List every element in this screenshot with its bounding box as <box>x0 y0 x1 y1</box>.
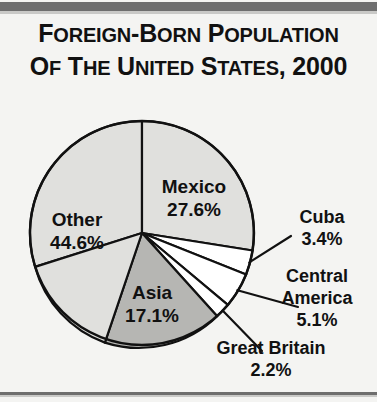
leader-line-cuba <box>249 236 291 262</box>
label-great-britain-name: Great Britain <box>216 338 325 358</box>
pie-chart-figure: FOREIGN-BORN POPULATION OF THE UNITED ST… <box>0 0 377 402</box>
top-divider-shadow <box>0 11 377 14</box>
label-cuba-name: Cuba <box>300 207 346 227</box>
chart-title-line-1: FOREIGN-BORN POPULATION <box>0 18 377 51</box>
label-other-value: 44.6% <box>50 232 104 253</box>
pie-svg: Mexico 27.6% Other 44.6% Asia 17.1% Cuba… <box>0 95 377 390</box>
label-great-britain-value: 2.2% <box>250 360 291 380</box>
chart-plot-area: Mexico 27.6% Other 44.6% Asia 17.1% Cuba… <box>0 95 377 390</box>
label-central-america-name-line1: Central <box>286 266 348 286</box>
bottom-divider-shadow <box>0 395 377 397</box>
label-central-america-name-line2: America <box>281 288 353 308</box>
top-divider-rule <box>0 2 377 11</box>
label-mexico-value: 27.6% <box>167 199 221 220</box>
label-mexico-name: Mexico <box>162 176 226 197</box>
label-other-name: Other <box>52 209 103 230</box>
label-central-america-value: 5.1% <box>296 310 337 330</box>
chart-title: FOREIGN-BORN POPULATION OF THE UNITED ST… <box>0 18 377 84</box>
label-cuba-value: 3.4% <box>301 229 342 249</box>
chart-title-line-2: OF THE UNITED STATES, 2000 <box>0 51 377 84</box>
label-asia-value: 17.1% <box>125 305 179 326</box>
label-asia-name: Asia <box>132 282 173 303</box>
